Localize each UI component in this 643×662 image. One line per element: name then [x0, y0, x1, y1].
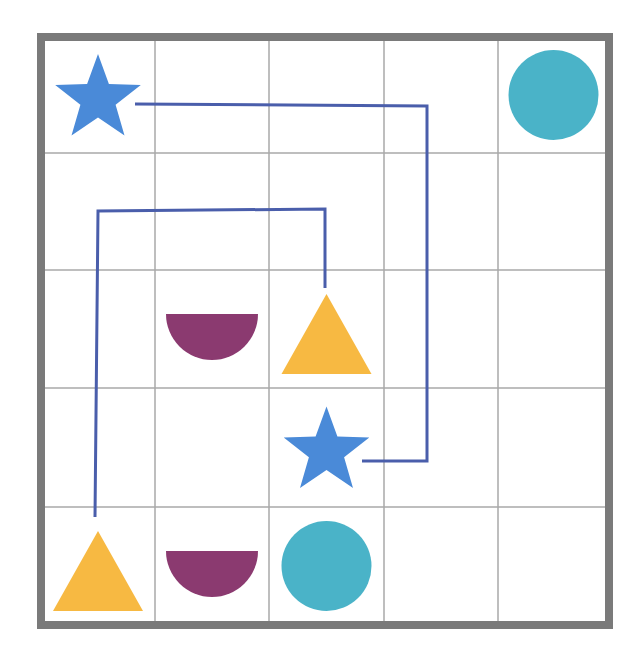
semicircle-r2-c1-shape [166, 314, 258, 360]
semicircle-r4-c1-shape [166, 551, 258, 597]
star-r0-c0-shape [55, 54, 141, 135]
circle-r4-c2-shape [282, 521, 372, 611]
shapes-layer [53, 50, 599, 611]
circle-r0-c4-shape [509, 50, 599, 140]
connection-star-to-star [135, 104, 427, 461]
triangle-r2-c2-shape [282, 294, 372, 374]
shape-matching-board [0, 0, 643, 662]
triangle-r4-c0-shape [53, 531, 143, 611]
connection-paths [95, 104, 427, 517]
star-r3-c2-shape [284, 407, 370, 488]
